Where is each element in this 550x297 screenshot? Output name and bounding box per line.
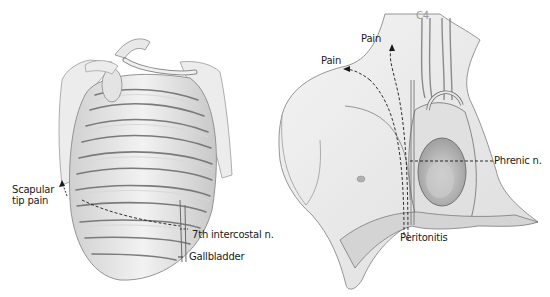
anatomical-figure: Scapular tip pain 7th intercostal n. Gal… bbox=[0, 0, 550, 297]
pain-upper-label: Pain bbox=[361, 33, 381, 44]
peritonitis-label: Peritonitis bbox=[400, 232, 448, 243]
scapular-label-line2: tip pain bbox=[12, 195, 54, 206]
c4-label: C4 bbox=[416, 10, 429, 21]
rib-cage-illustration bbox=[0, 0, 550, 297]
scapular-tip-pain-label: Scapular tip pain bbox=[12, 184, 54, 206]
gallbladder-label: Gallbladder bbox=[189, 251, 244, 262]
phrenic-nerve-label: Phrenic n. bbox=[494, 155, 542, 166]
pain-left-label: Pain bbox=[321, 55, 341, 66]
seventh-intercostal-nerve-label: 7th intercostal n. bbox=[192, 229, 274, 240]
scapular-label-line1: Scapular bbox=[12, 184, 54, 195]
